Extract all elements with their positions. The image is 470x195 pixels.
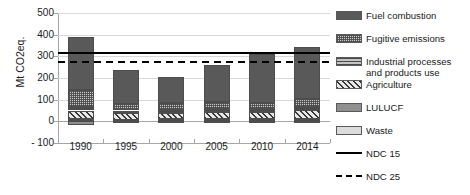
y-tick-label: 200 — [20, 73, 54, 83]
bar-group[interactable] — [294, 13, 320, 143]
legend-dashed-line-icon — [336, 171, 362, 180]
bar-segment[interactable] — [113, 113, 139, 120]
bar-group[interactable] — [68, 13, 94, 143]
bar-segment[interactable] — [113, 111, 139, 113]
legend-label: Fugitive emissions — [366, 33, 445, 44]
bar-segment[interactable] — [204, 109, 230, 112]
legend-item[interactable]: Agriculture — [336, 79, 412, 90]
bar-segment[interactable] — [294, 99, 320, 106]
bar-segment[interactable] — [204, 112, 230, 119]
legend-swatch-icon — [336, 80, 362, 89]
x-tick-label: 1990 — [58, 141, 104, 152]
x-tick-label: 2005 — [194, 141, 240, 152]
y-tick-mark — [54, 13, 58, 14]
bar-segment[interactable] — [68, 90, 94, 106]
bar-segment[interactable] — [249, 121, 275, 123]
legend-item[interactable]: NDC 25 — [336, 171, 400, 182]
bar-segment[interactable] — [294, 110, 320, 119]
gridline — [58, 13, 330, 14]
bar-group[interactable] — [113, 13, 139, 143]
plot-area — [58, 13, 330, 143]
bar-segment[interactable] — [158, 110, 184, 113]
x-axis-line — [58, 121, 330, 122]
x-tick-label: 2014 — [284, 141, 330, 152]
bar-segment[interactable] — [294, 47, 320, 99]
bar-segment[interactable] — [294, 121, 320, 123]
y-tick-mark — [54, 100, 58, 101]
y-axis-tick-labels: 5004003002001000- 100 — [18, 0, 54, 195]
legend-label: NDC 25 — [366, 171, 400, 182]
y-tick-label: - 100 — [20, 138, 54, 148]
legend-label: Waste — [366, 125, 393, 136]
bar-segment[interactable] — [294, 107, 320, 110]
ndc25-threshold-line — [58, 61, 330, 64]
chart-root: Mt CO2eq. 5004003002001000- 100 19901995… — [0, 0, 470, 195]
legend-item[interactable]: NDC 15 — [336, 148, 400, 159]
legend-swatch-icon — [336, 103, 362, 112]
bar-group[interactable] — [158, 13, 184, 143]
legend-item[interactable]: LULUCF — [336, 102, 403, 113]
x-tick-label: 1995 — [103, 141, 149, 152]
y-tick-mark — [54, 35, 58, 36]
legend-item[interactable]: Fuel combustion — [336, 10, 436, 21]
bar-segment[interactable] — [204, 102, 230, 108]
gridline — [58, 56, 330, 57]
bar-segment[interactable] — [113, 70, 139, 104]
bar-segment[interactable] — [68, 111, 94, 120]
legend-label: LULUCF — [366, 102, 403, 113]
gridline — [58, 78, 330, 79]
bar-segment[interactable] — [68, 107, 94, 111]
legend-label: Fuel combustion — [366, 10, 436, 21]
legend-label: Agriculture — [366, 79, 412, 90]
bar-group[interactable] — [249, 13, 275, 143]
legend-swatch-icon — [336, 57, 362, 66]
bar-segment[interactable] — [158, 77, 184, 103]
legend-item[interactable]: Industrial processes and products use — [336, 56, 451, 78]
x-tick-label: 2010 — [239, 141, 285, 152]
legend-item[interactable]: Waste — [336, 125, 393, 136]
legend-item[interactable]: Fugitive emissions — [336, 33, 445, 44]
bar-group[interactable] — [204, 13, 230, 143]
legend-swatch-icon — [336, 34, 362, 43]
y-tick-label: 100 — [20, 95, 54, 105]
bar-segment[interactable] — [204, 65, 230, 102]
bar-segment[interactable] — [68, 121, 94, 125]
x-tick-label: 2000 — [148, 141, 194, 152]
bar-segment[interactable] — [249, 103, 275, 109]
bar-segment[interactable] — [113, 104, 139, 110]
bar-segment[interactable] — [158, 103, 184, 110]
bar-segment[interactable] — [68, 37, 94, 91]
y-tick-label: 0 — [20, 116, 54, 126]
legend-label: NDC 15 — [366, 148, 400, 159]
y-tick-label: 400 — [20, 30, 54, 40]
y-tick-mark — [54, 56, 58, 57]
bar-segment[interactable] — [158, 121, 184, 123]
y-tick-label: 300 — [20, 51, 54, 61]
bar-segment[interactable] — [158, 113, 184, 119]
bar-segment[interactable] — [113, 121, 139, 123]
ndc15-threshold-line — [58, 52, 330, 54]
y-tick-mark — [54, 78, 58, 79]
y-tick-label: 500 — [20, 8, 54, 18]
legend-solid-line-icon — [336, 148, 362, 157]
legend-swatch-icon — [336, 126, 362, 135]
legend-label: Industrial processes and products use — [366, 56, 451, 78]
gridline — [58, 35, 330, 36]
legend-swatch-icon — [336, 11, 362, 20]
gridline — [58, 100, 330, 101]
bar-segment[interactable] — [204, 121, 230, 123]
bar-segment[interactable] — [249, 109, 275, 112]
bar-segment[interactable] — [249, 112, 275, 119]
